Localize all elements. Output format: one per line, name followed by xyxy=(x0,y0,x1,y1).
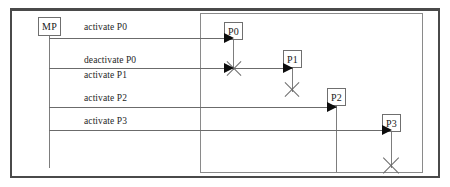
message-line-activate-p2 xyxy=(49,107,337,108)
participant-label-p2: P2 xyxy=(331,92,342,103)
arrowhead-activate-p2 xyxy=(327,102,337,112)
message-label-activate-p2: activate P2 xyxy=(84,93,127,103)
message-label-activate-p1: activate P1 xyxy=(84,70,127,80)
message-line-activate-p1 xyxy=(49,68,293,69)
destruction-marker-p3 xyxy=(380,154,402,176)
participant-label-mp: MP xyxy=(42,21,57,32)
message-line-activate-p3 xyxy=(49,130,392,131)
message-label-deactivate-p0: deactivate P0 xyxy=(84,55,136,65)
arrowhead-activate-p0 xyxy=(224,33,234,43)
arrowhead-deactivate-p0 xyxy=(224,63,234,73)
lifeline-mp xyxy=(49,36,50,168)
destruction-marker-p1 xyxy=(282,79,302,99)
sequence-diagram-canvas: MP P0 P1 P2 P3 activate P0 deactivate P0… xyxy=(0,0,450,187)
message-label-activate-p0: activate P0 xyxy=(84,22,127,32)
participant-box-mp[interactable]: MP xyxy=(38,17,61,36)
arrowhead-activate-p1 xyxy=(283,63,293,73)
lifeline-p2 xyxy=(336,106,337,172)
arrowhead-activate-p3 xyxy=(382,125,392,135)
message-line-activate-p0 xyxy=(49,38,234,39)
message-label-activate-p3: activate P3 xyxy=(84,116,127,126)
